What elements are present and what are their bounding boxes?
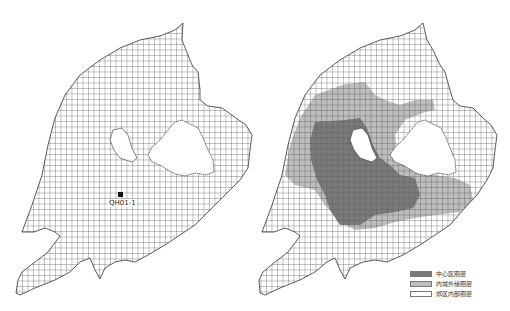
legend-item-inner-edge-zone: 内城外缘圈层 [410,279,505,288]
map-legend: 中心区圈层 内城外缘圈层 郊区内部圈层 [410,269,505,299]
left-grid-map: QH01-1 [0,0,255,311]
sample-point-label: QH01-1 [108,199,137,207]
right-zoning-map [255,0,510,311]
legend-label: 中心区圈层 [436,270,466,277]
legend-swatch-suburban [410,291,432,297]
right-map-canvas [255,0,510,311]
legend-item-central-zone: 中心区圈层 [410,269,505,278]
legend-label: 郊区内部圈层 [436,290,472,297]
legend-label: 内城外缘圈层 [436,280,472,287]
legend-item-suburban-zone: 郊区内部圈层 [410,289,505,298]
sample-point-marker[interactable] [118,192,123,197]
legend-swatch-inner-edge [410,281,432,287]
legend-swatch-central [410,271,432,277]
left-map-canvas [0,0,255,311]
